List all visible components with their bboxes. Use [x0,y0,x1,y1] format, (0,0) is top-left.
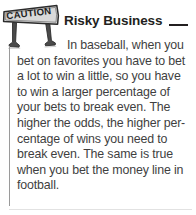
body-line: a lot to win a little, so you have [17,69,193,85]
title-rule [169,24,188,26]
body-line: when you bet the money line in [17,163,193,179]
risky-business-sidebar-note: CAUTION Risky Business In baseball, when… [0,0,196,215]
body-line: bet on favorites you have to bet [17,54,193,70]
body-line: break even. The same is true [17,147,193,163]
body-line: football. [17,178,193,194]
note-body-text: In baseball, when you bet on favorites y… [17,38,193,194]
note-header: Risky Business [64,11,192,31]
body-line: to win a larger percentage of [17,85,193,101]
note-title: Risky Business [64,14,162,28]
body-line: your bets to break even. The [17,100,193,116]
body-line: centage of wins you need to [17,132,193,148]
body-line: higher the odds, the higher per- [17,116,193,132]
body-line: In baseball, when you [17,38,193,54]
left-margin-rule [9,46,10,206]
bottom-rule [9,209,192,210]
